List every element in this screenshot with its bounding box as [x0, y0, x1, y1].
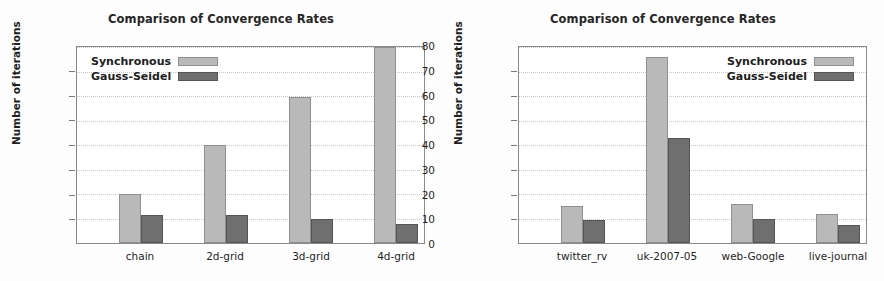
y-tick: 50	[391, 114, 435, 126]
y-tick-mark	[511, 120, 517, 121]
bar-gauss-seidel[interactable]	[583, 220, 605, 243]
chart-title-left: Comparison of Convergence Rates	[0, 12, 442, 26]
y-tick: 30	[391, 164, 435, 176]
y-tick-mark	[69, 96, 75, 97]
figure-canvas: Comparison of Convergence Rates Number o…	[0, 0, 884, 281]
x-tick-twitter-rv: twitter_rv	[557, 250, 607, 262]
legend-swatch-synchronous	[178, 57, 218, 66]
legend-left: Synchronous Gauss-Seidel	[89, 53, 220, 85]
y-tick-mark	[69, 195, 75, 196]
bar-gauss-seidel[interactable]	[668, 138, 690, 243]
y-tick: 10	[391, 213, 435, 225]
bar-group	[552, 47, 614, 243]
bar-gauss-seidel[interactable]	[311, 219, 333, 244]
y-tick: 80	[391, 40, 435, 52]
bar-synchronous[interactable]	[119, 194, 141, 243]
plot-area-left: Synchronous Gauss-Seidel	[76, 46, 425, 244]
x-tick-live-journal: live-journal	[809, 250, 867, 262]
y-tick-mark	[69, 219, 75, 220]
plot-area-right: Synchronous Gauss-Seidel	[518, 46, 867, 244]
bar-group	[280, 47, 342, 243]
y-tick-mark	[69, 170, 75, 171]
chart-title-right: Comparison of Convergence Rates	[442, 12, 884, 26]
x-tick-chain: chain	[126, 250, 154, 262]
y-tick: 60	[391, 90, 435, 102]
x-tick-3d-grid: 3d-grid	[292, 250, 330, 262]
legend-label: Gauss-Seidel	[91, 70, 171, 83]
y-tick-mark	[69, 71, 75, 72]
legend-swatch-gauss-seidel	[178, 72, 218, 81]
legend-item-synchronous: Synchronous	[91, 55, 218, 68]
bar-gauss-seidel[interactable]	[226, 215, 248, 243]
legend-swatch-gauss-seidel	[814, 72, 854, 81]
y-tick-mark	[511, 195, 517, 196]
legend-label: Synchronous	[91, 55, 171, 68]
x-tick-4d-grid: 4d-grid	[377, 250, 415, 262]
y-tick-mark	[511, 170, 517, 171]
y-tick: 40	[391, 139, 435, 151]
y-tick-mark	[511, 96, 517, 97]
bar-gauss-seidel[interactable]	[838, 225, 860, 243]
y-tick-mark	[69, 145, 75, 146]
x-tick-web-google: web-Google	[722, 250, 785, 262]
legend-label: Synchronous	[727, 55, 807, 68]
legend-swatch-synchronous	[814, 57, 854, 66]
bar-synchronous[interactable]	[561, 206, 583, 243]
bar-gauss-seidel[interactable]	[753, 219, 775, 244]
chart-panel-right: Comparison of Convergence Rates Number o…	[442, 0, 884, 281]
chart-panel-left: Comparison of Convergence Rates Number o…	[0, 0, 442, 281]
bar-synchronous[interactable]	[816, 214, 838, 243]
y-tick-mark	[511, 145, 517, 146]
legend-item-gauss-seidel: Gauss-Seidel	[727, 70, 854, 83]
y-tick: 0	[391, 238, 435, 250]
y-tick-mark	[511, 219, 517, 220]
bar-synchronous[interactable]	[646, 57, 668, 243]
bar-synchronous[interactable]	[289, 97, 311, 243]
bar-group	[637, 47, 699, 243]
y-tick: 70	[391, 65, 435, 77]
y-axis-label-right: Number of iterations	[452, 21, 464, 145]
bar-synchronous[interactable]	[731, 204, 753, 243]
y-tick-mark	[511, 71, 517, 72]
x-tick-uk-2007-05: uk-2007-05	[637, 250, 697, 262]
bar-synchronous[interactable]	[204, 145, 226, 243]
y-tick: 20	[391, 189, 435, 201]
legend-label: Gauss-Seidel	[727, 70, 807, 83]
legend-item-gauss-seidel: Gauss-Seidel	[91, 70, 218, 83]
legend-right: Synchronous Gauss-Seidel	[725, 53, 856, 85]
x-tick-2d-grid: 2d-grid	[206, 250, 244, 262]
y-axis-label-left: Number of iterations	[10, 21, 22, 145]
legend-item-synchronous: Synchronous	[727, 55, 854, 68]
y-tick-mark	[69, 120, 75, 121]
bar-gauss-seidel[interactable]	[141, 215, 163, 243]
